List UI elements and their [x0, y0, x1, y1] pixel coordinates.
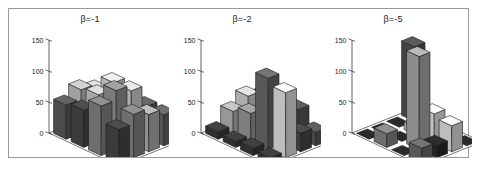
- axis-tick-label: 0: [40, 130, 44, 137]
- axis-tick-label: 100: [335, 68, 347, 75]
- bar3d-canvas: 050100150: [11, 9, 169, 157]
- chart-panel-beta-5: β=-5 050100150: [314, 9, 472, 157]
- axis-tick-label: 150: [32, 37, 44, 44]
- axis-tick-label: 50: [339, 99, 347, 106]
- axis-tick-label: 150: [184, 37, 196, 44]
- axis-tick-label: 50: [188, 99, 196, 106]
- axis-tick-label: 150: [335, 37, 347, 44]
- bar3d-canvas: 050100150: [163, 9, 321, 157]
- axis-tick-label: 0: [343, 130, 347, 137]
- chart-panel-beta-2: β=-2 050100150: [163, 9, 321, 157]
- axis-tick-label: 100: [32, 68, 44, 75]
- figure-root: β=-1 050100150 β=-2 050100150 β=-5 05010…: [0, 0, 479, 169]
- chart-panel-beta-1: β=-1 050100150: [11, 9, 169, 157]
- figure-frame: β=-1 050100150 β=-2 050100150 β=-5 05010…: [8, 8, 469, 158]
- bar3d-canvas: 050100150: [314, 9, 472, 157]
- axis-tick-label: 50: [36, 99, 44, 106]
- axis-tick-label: 100: [184, 68, 196, 75]
- axis-tick-label: 0: [192, 130, 196, 137]
